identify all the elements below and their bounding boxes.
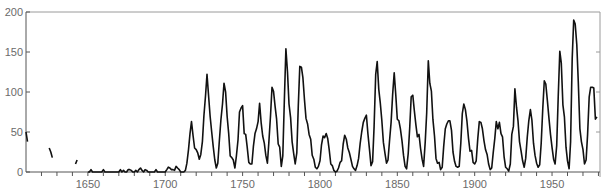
sunspot-line [88, 20, 597, 172]
x-tick-label: 1800 [308, 178, 332, 190]
y-tick-label: 50 [11, 126, 23, 138]
x-axis: 1650170017501800185019001950 [41, 172, 598, 190]
sunspot-line [76, 160, 78, 164]
sunspot-line-chart: 050100150200 165017001750180018501900195… [0, 0, 607, 194]
sunspot-line [49, 148, 52, 158]
x-tick-label: 1900 [462, 178, 486, 190]
y-tick-label: 0 [17, 166, 23, 178]
x-tick-label: 1950 [540, 178, 564, 190]
x-tick-label: 1650 [76, 178, 100, 190]
x-tick-label: 1850 [385, 178, 409, 190]
x-tick-label: 1700 [153, 178, 177, 190]
x-tick-label: 1750 [230, 178, 254, 190]
y-tick-label: 150 [5, 46, 23, 58]
y-tick-label: 100 [5, 86, 23, 98]
data-series [26, 20, 597, 172]
y-tick-label: 200 [5, 6, 23, 18]
